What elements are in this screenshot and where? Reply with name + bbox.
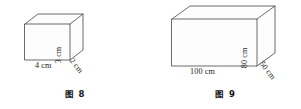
figure-8-width-label: 4 cm xyxy=(35,62,52,70)
figure-sheet: 4 cm 3 cm 2 cm 图 8 100 cm 80 cm 50 cm 图 … xyxy=(0,0,301,109)
figure-8-height-label: 3 cm xyxy=(55,47,63,64)
figure-8-caption: 图 8 xyxy=(0,90,150,99)
figure-9-caption: 图 9 xyxy=(150,90,301,99)
figure-8-panel: 4 cm 3 cm 2 cm 图 8 xyxy=(0,0,150,109)
figure-9-width-label: 100 cm xyxy=(190,68,215,76)
figure-9-panel: 100 cm 80 cm 50 cm 图 9 xyxy=(150,0,301,109)
figure-8-front-face xyxy=(25,24,70,60)
figure-9-height-label: 80 cm xyxy=(241,47,249,68)
